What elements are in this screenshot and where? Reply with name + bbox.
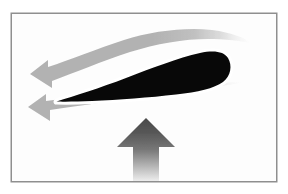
airfoil-diagram-canvas	[0, 0, 288, 194]
airfoil-lift-figure: Airfoil lift diagram	[0, 0, 288, 194]
